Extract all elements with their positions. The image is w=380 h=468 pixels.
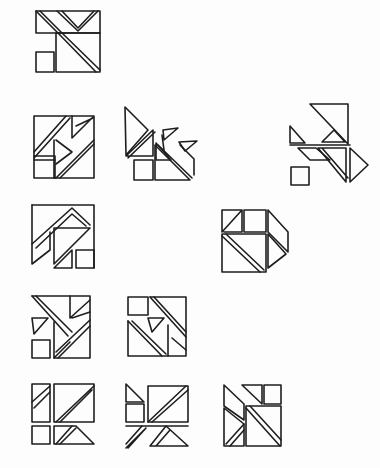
piece <box>54 140 72 178</box>
piece <box>298 148 330 160</box>
piece <box>290 126 305 143</box>
piece <box>32 318 48 334</box>
piece <box>222 234 264 272</box>
piece <box>246 406 281 446</box>
piece <box>126 384 144 402</box>
piece <box>54 250 72 268</box>
piece <box>36 11 62 33</box>
sketch-canvas <box>0 0 380 468</box>
piece <box>54 426 94 444</box>
piece <box>76 250 94 268</box>
figure-11 <box>224 385 281 446</box>
piece <box>264 385 281 404</box>
piece <box>70 296 90 318</box>
figure-6 <box>222 210 288 272</box>
piece <box>291 167 309 185</box>
sketch-sheet <box>0 0 380 468</box>
piece <box>32 384 50 422</box>
piece <box>128 321 166 356</box>
figure-2 <box>34 116 94 178</box>
piece <box>57 11 98 31</box>
piece <box>34 116 70 158</box>
piece <box>56 386 94 422</box>
piece <box>128 297 148 315</box>
piece <box>56 426 76 444</box>
piece <box>72 116 93 138</box>
piece <box>148 318 164 332</box>
piece <box>134 160 153 180</box>
piece <box>150 426 188 446</box>
piece <box>244 210 266 232</box>
piece <box>32 340 50 358</box>
piece <box>242 385 262 404</box>
piece <box>224 385 244 420</box>
piece <box>56 320 90 358</box>
piece <box>58 33 100 72</box>
piece <box>32 386 50 408</box>
figure-10 <box>126 384 188 448</box>
piece <box>126 404 144 422</box>
piece <box>350 148 368 182</box>
figure-5 <box>32 205 94 268</box>
figure-3 <box>125 107 197 180</box>
figure-4 <box>290 104 368 185</box>
piece <box>268 234 286 268</box>
figure-1 <box>36 11 100 72</box>
piece <box>125 107 148 155</box>
figure-9 <box>32 384 94 444</box>
piece <box>246 406 281 446</box>
figure-8 <box>128 297 186 356</box>
piece <box>148 386 188 422</box>
figure-7 <box>32 296 90 358</box>
piece <box>54 384 94 422</box>
piece <box>226 424 244 446</box>
piece <box>163 128 178 140</box>
piece <box>32 426 50 444</box>
piece <box>32 205 50 264</box>
piece <box>222 210 242 232</box>
piece <box>322 130 345 142</box>
piece <box>318 148 348 182</box>
piece <box>126 426 146 448</box>
piece <box>36 52 54 72</box>
piece <box>126 130 155 158</box>
